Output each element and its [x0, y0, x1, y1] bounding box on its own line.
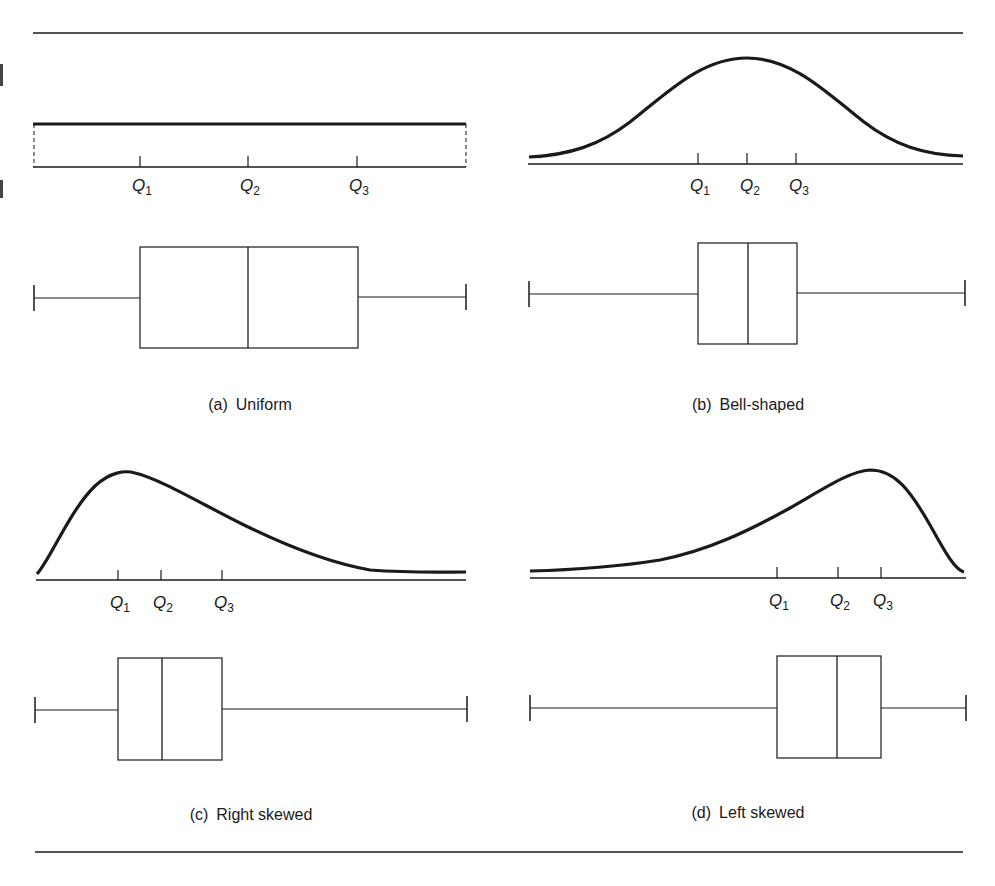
- panel-d-caption: (d)Left skewed: [692, 804, 805, 822]
- q3-label: Q3: [349, 176, 369, 198]
- right-skewed-curve: [37, 472, 466, 574]
- panel-a-boxplot: [34, 247, 466, 348]
- q2-label: Q2: [240, 176, 260, 198]
- iqr-box: [777, 656, 881, 758]
- panel-d-boxplot: [530, 656, 966, 758]
- q3-label: Q3: [789, 176, 809, 198]
- q2-label: Q2: [153, 593, 173, 615]
- panel-a-caption: (a)Uniform: [208, 396, 292, 414]
- q3-label: Q3: [873, 591, 893, 613]
- iqr-box: [118, 658, 222, 760]
- q3-label: Q3: [214, 593, 234, 615]
- panel-b-boxplot: [529, 243, 965, 344]
- panel-b-distribution: [528, 58, 963, 164]
- panel-a-distribution: [33, 124, 466, 167]
- bell-curve: [529, 58, 963, 157]
- q1-label: Q1: [132, 176, 152, 198]
- panel-d-distribution: [530, 470, 966, 578]
- q1-label: Q1: [690, 176, 710, 198]
- panel-c-boxplot: [35, 658, 467, 760]
- panel-b-caption: (b)Bell-shaped: [692, 396, 804, 414]
- iqr-box: [140, 247, 358, 348]
- panel-c-caption: (c)Right skewed: [190, 806, 313, 824]
- boxplot-shape-figure: [0, 0, 995, 886]
- left-skewed-curve: [530, 470, 964, 572]
- q2-label: Q2: [830, 591, 850, 613]
- q1-label: Q1: [110, 593, 130, 615]
- panel-c-distribution: [36, 472, 466, 580]
- q1-label: Q1: [769, 591, 789, 613]
- q2-label: Q2: [740, 176, 760, 198]
